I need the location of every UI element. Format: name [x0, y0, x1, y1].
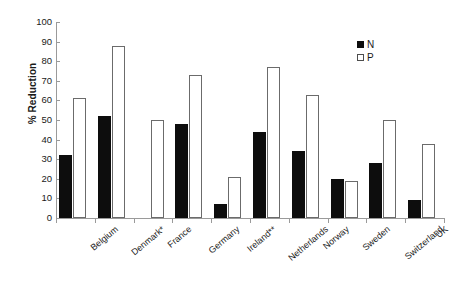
y-axis-tick-label: 30	[26, 154, 52, 164]
x-axis-tick-mark	[366, 219, 367, 223]
bar-n	[214, 204, 227, 218]
y-axis-tick-label: 10	[26, 194, 52, 204]
bar-group	[134, 22, 173, 218]
y-axis-tick-label: 50	[26, 115, 52, 125]
bar-group	[289, 22, 328, 218]
y-axis-tick-label: 70	[26, 76, 52, 86]
bar-n	[98, 116, 111, 218]
bar-p	[189, 75, 202, 218]
open-square-icon	[357, 54, 364, 61]
bar-p	[422, 144, 435, 218]
y-axis-tick-label: 100	[26, 17, 52, 27]
x-axis-tick-mark	[134, 219, 135, 223]
y-axis-tick-label: 90	[26, 37, 52, 47]
bar-p	[345, 181, 358, 218]
bar-n	[292, 151, 305, 218]
y-axis-tick-label: 80	[26, 56, 52, 66]
x-axis-tick-mark	[444, 219, 445, 223]
legend-item-n: N	[357, 38, 374, 51]
y-axis-tick-label: 0	[26, 213, 52, 223]
y-axis-tick-labels: 0102030405060708090100	[22, 0, 52, 283]
x-axis-category-label: Sweden	[361, 224, 392, 253]
x-axis-category-label: Germany	[206, 224, 241, 255]
legend-label-p: P	[367, 53, 374, 63]
bar-n	[59, 155, 72, 218]
x-axis-tick-mark	[328, 219, 329, 223]
bar-n	[369, 163, 382, 218]
bar-group	[250, 22, 289, 218]
x-axis-category-label: Belgium	[89, 224, 120, 253]
plot-area	[56, 22, 444, 218]
bar-n	[408, 200, 421, 218]
chart-legend: N P	[357, 38, 374, 64]
x-axis-tick-mark	[56, 219, 57, 223]
bar-p	[383, 120, 396, 218]
bar-p	[151, 120, 164, 218]
legend-item-p: P	[357, 51, 374, 64]
x-axis-category-label: Ireland**	[245, 224, 278, 254]
bar-p	[306, 95, 319, 218]
x-axis-tick-mark	[172, 219, 173, 223]
filled-square-icon	[357, 41, 364, 48]
x-axis-tick-mark	[95, 219, 96, 223]
x-axis-tick-mark	[250, 219, 251, 223]
bar-p	[112, 46, 125, 218]
bar-group	[211, 22, 250, 218]
x-axis-tick-mark	[211, 219, 212, 223]
y-axis-tick-label: 60	[26, 96, 52, 106]
bar-group	[95, 22, 134, 218]
bar-p	[267, 67, 280, 218]
y-axis-tick-label: 20	[26, 174, 52, 184]
x-axis-category-label: Denmark*	[130, 224, 167, 257]
bar-chart: % Reduction 0102030405060708090100 Belgi…	[0, 0, 454, 283]
bar-n	[175, 124, 188, 218]
x-axis-tick-mark	[405, 219, 406, 223]
bar-p	[73, 98, 86, 218]
bar-p	[228, 177, 241, 218]
y-axis-tick-label: 40	[26, 135, 52, 145]
bar-group	[405, 22, 444, 218]
bar-n	[253, 132, 266, 218]
bar-group	[172, 22, 211, 218]
x-axis-tick-mark	[289, 219, 290, 223]
x-axis-category-label: France	[166, 224, 194, 250]
bar-group	[56, 22, 95, 218]
bar-n	[331, 179, 344, 218]
legend-label-n: N	[367, 40, 374, 50]
